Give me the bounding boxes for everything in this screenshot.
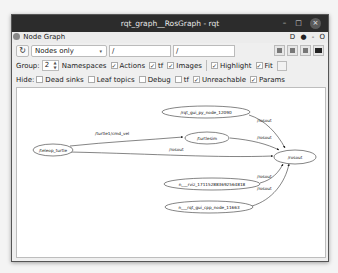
edge-label: /rosout: [257, 186, 272, 191]
title-bar[interactable]: rqt_graph__RosGraph - rqt – □ ×: [12, 15, 328, 32]
refresh-icon: ↻: [19, 46, 26, 55]
node-graph-icon: [13, 33, 20, 40]
graph-svg: /turtle1/cmd_vel /rosout /rosout /rosout…: [17, 88, 327, 259]
fit-checkbox[interactable]: ✓Fit: [256, 62, 273, 70]
node-label: /rqt_gui_py_node_12090: [180, 110, 231, 115]
minimize-button[interactable]: –: [279, 18, 290, 29]
hide-label: Hide:: [16, 76, 34, 84]
leaf-topics-checkbox[interactable]: Leaf topics: [88, 76, 135, 84]
params-checkbox[interactable]: ✓Params: [250, 76, 285, 84]
checkbox-label: Images: [176, 62, 202, 70]
graph-canvas[interactable]: /turtle1/cmd_vel /rosout /rosout /rosout…: [16, 87, 326, 258]
checkbox-box: [88, 76, 95, 83]
rqt-window: rqt_graph__RosGraph - rqt – □ × Node Gra…: [11, 14, 329, 262]
checkbox-box: [175, 76, 182, 83]
spin-arrows-icon[interactable]: ▲▼: [54, 61, 57, 70]
save-image-button[interactable]: [313, 45, 324, 56]
graph-node[interactable]: /rqt_gui_py_node_12090: [162, 106, 250, 118]
checkbox-label: Fit: [265, 62, 273, 70]
tf-checkbox[interactable]: ✓tf: [149, 62, 163, 70]
checkbox-label: Actions: [120, 62, 146, 70]
refresh-button[interactable]: ↻: [16, 45, 29, 57]
checkbox-label: tf: [184, 76, 189, 84]
graph-type-value: Nodes only: [35, 47, 74, 55]
settings-icon[interactable]: ●: [300, 33, 306, 41]
window-title: rqt_graph__RosGraph - rqt: [121, 15, 219, 32]
edge-label: /rosout: [257, 118, 272, 123]
save-svg-icon: [303, 48, 308, 53]
node-label: n___rqt_gui_cpp_node_11663: [178, 205, 239, 210]
edge-label: /rosout: [257, 135, 272, 140]
namespace-filter-input[interactable]: /: [109, 45, 171, 57]
checkbox-box: [139, 76, 146, 83]
checkbox-label: Params: [259, 76, 285, 84]
graph-type-select[interactable]: Nodes only ▾: [31, 45, 107, 57]
edges: [70, 115, 289, 206]
group-value: 2: [45, 61, 49, 69]
topic-filter-input[interactable]: /: [173, 45, 235, 57]
maximize-button[interactable]: □: [293, 18, 304, 29]
edge-label: /rosout: [169, 147, 184, 152]
checkbox-box: ✓: [211, 62, 218, 69]
close-button[interactable]: ×: [310, 18, 321, 29]
node-label: n___rviz_171152883692564818: [179, 182, 246, 187]
graph-node[interactable]: /turtlesim: [185, 132, 229, 144]
debug-checkbox[interactable]: Debug: [139, 76, 171, 84]
node-label: /teleop_turtle: [39, 148, 68, 153]
dock-widget-header: Node Graph D ● - O: [12, 32, 328, 43]
fit-in-view-button[interactable]: [277, 61, 287, 71]
checkbox-box: ✓: [167, 62, 174, 69]
hide-tf-checkbox[interactable]: tf: [175, 76, 189, 84]
checkbox-label: Leaf topics: [97, 76, 135, 84]
checkbox-box: ✓: [149, 62, 156, 69]
graph-node[interactable]: n___rviz_171152883692564818: [164, 178, 260, 190]
actions-checkbox[interactable]: ✓Actions: [111, 62, 146, 70]
checkbox-label: Debug: [148, 76, 171, 84]
chevron-down-icon: ▾: [99, 46, 102, 56]
help-button[interactable]: D: [290, 33, 295, 41]
checkbox-box: [36, 76, 43, 83]
images-checkbox[interactable]: ✓Images: [167, 62, 202, 70]
dock-close-button[interactable]: O: [319, 33, 325, 41]
group-label: Group:: [16, 62, 40, 70]
node-label: /rosout: [288, 155, 303, 160]
save-dot-icon: [290, 48, 295, 53]
dock-title: Node Graph: [23, 33, 65, 41]
checkbox-label: tf: [158, 62, 163, 70]
load-dot-button[interactable]: [274, 45, 285, 56]
checkbox-label: Highlight: [220, 62, 252, 70]
namespaces-checkbox[interactable]: Namespaces: [62, 62, 107, 70]
graph-edge[interactable]: [70, 152, 273, 157]
node-label: /turtlesim: [197, 136, 217, 141]
save-svg-button[interactable]: [300, 45, 311, 56]
hide-row: Hide: Dead sinks Leaf topics Debug tf ✓U…: [16, 73, 324, 86]
unreachable-checkbox[interactable]: ✓Unreachable: [193, 76, 246, 84]
save-image-icon: [315, 48, 322, 53]
checkbox-box: ✓: [111, 62, 118, 69]
load-dot-icon: [277, 48, 282, 53]
dead-sinks-checkbox[interactable]: Dead sinks: [36, 76, 83, 84]
toolbar-row: ↻ Nodes only ▾ / /: [16, 44, 324, 57]
highlight-checkbox[interactable]: ✓Highlight: [211, 62, 252, 70]
options-row: Group: 2 ▲▼ Namespaces ✓Actions ✓tf ✓Ima…: [16, 59, 324, 72]
checkbox-label: Unreachable: [202, 76, 246, 84]
edge-label: /rosout: [257, 174, 272, 179]
graph-node[interactable]: n___rqt_gui_cpp_node_11663: [165, 201, 253, 213]
graph-edge[interactable]: [70, 137, 183, 146]
save-dot-button[interactable]: [287, 45, 298, 56]
checkbox-box: ✓: [250, 76, 257, 83]
checkbox-label: Dead sinks: [45, 76, 83, 84]
checkbox-box: ✓: [193, 76, 200, 83]
graph-node[interactable]: /teleop_turtle: [33, 144, 73, 156]
dock-minimize-button[interactable]: -: [312, 33, 315, 41]
checkbox-box: ✓: [256, 62, 263, 69]
graph-node[interactable]: /rosout: [274, 150, 316, 164]
edge-label: /turtle1/cmd_vel: [95, 131, 129, 136]
separator: [206, 60, 207, 71]
group-spinbox[interactable]: 2 ▲▼: [42, 60, 59, 71]
